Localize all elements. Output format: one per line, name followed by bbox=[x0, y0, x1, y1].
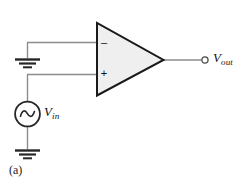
input-voltage-symbol: V bbox=[44, 104, 52, 119]
opamp-noninverting-input-sign: + bbox=[99, 68, 109, 79]
ground-icon-inverting bbox=[15, 60, 40, 68]
circuit-schematic bbox=[0, 0, 242, 185]
ground-icon-source bbox=[15, 151, 40, 159]
output-voltage-symbol: V bbox=[213, 50, 221, 65]
output-voltage-label: Vout bbox=[213, 50, 233, 67]
output-voltage-subscript: out bbox=[221, 57, 233, 67]
input-voltage-label: Vin bbox=[44, 104, 59, 121]
panel-label: (a) bbox=[9, 163, 22, 178]
input-voltage-subscript: in bbox=[52, 111, 59, 121]
opamp-symbol bbox=[97, 23, 164, 96]
output-terminal-icon bbox=[202, 57, 208, 63]
opamp-triangle bbox=[97, 23, 164, 96]
ac-source-icon bbox=[15, 102, 40, 127]
opamp-inverting-input-sign: – bbox=[99, 37, 109, 48]
opamp-noninverting-buffer-figure: – + Vout Vin (a) bbox=[0, 0, 242, 185]
